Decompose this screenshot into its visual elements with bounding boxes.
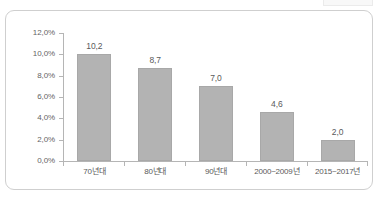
x-axis-category-label: 80년대 (125, 166, 186, 177)
y-axis-tick-label: 10,0% (33, 48, 55, 59)
y-axis-tick-mark (59, 76, 63, 77)
scan-edge-artifact (323, 0, 373, 6)
x-axis-category-label: 90년대 (186, 166, 247, 177)
bar (321, 140, 355, 161)
bar (77, 54, 111, 161)
x-axis-label-group: 70년대 80년대 90년대 2000~2009년 2015~2017년 (64, 166, 368, 177)
x-axis-category-label: 70년대 (64, 166, 125, 177)
bar (199, 86, 233, 161)
chart-container: 12,0% 10,0% 8,0% 6,0% 4,0% 2,0% (5, 10, 373, 190)
bar (260, 112, 294, 161)
bar-value-label: 4,6 (246, 99, 307, 109)
bar-series: 10,2 8,7 7,0 4,6 2,0 (64, 33, 368, 161)
bar-value-label: 10,2 (64, 41, 125, 51)
bar-value-label: 8,7 (125, 55, 186, 65)
x-axis-category-label: 2000~2009년 (246, 166, 307, 177)
y-axis-tick-mark (59, 140, 63, 141)
y-axis-tick-label: 4,0% (37, 112, 55, 123)
y-axis-tick-mark (59, 54, 63, 55)
bar-group: 7,0 (186, 33, 247, 161)
y-axis-tick-mark (59, 33, 63, 34)
y-axis-tick-mark (59, 118, 63, 119)
bar-group: 4,6 (246, 33, 307, 161)
y-axis-tick-mark (59, 97, 63, 98)
bar-group: 8,7 (125, 33, 186, 161)
x-axis-category-label: 2015~2017년 (307, 166, 368, 177)
bar-value-label: 2,0 (307, 127, 368, 137)
y-axis-tick-label: 12,0% (33, 27, 55, 38)
y-axis-tick-group: 12,0% 10,0% 8,0% 6,0% 4,0% 2,0% (6, 33, 63, 161)
bar-group: 2,0 (307, 33, 368, 161)
y-axis-tick-label: 0,0% (37, 155, 55, 166)
y-axis-tick-label: 2,0% (37, 134, 55, 145)
bar-group: 10,2 (64, 33, 125, 161)
y-axis-tick-label: 8,0% (37, 70, 55, 81)
bar (138, 68, 172, 161)
bar-value-label: 7,0 (186, 73, 247, 83)
plot-area: 12,0% 10,0% 8,0% 6,0% 4,0% 2,0% (6, 11, 372, 189)
y-axis-tick-label: 6,0% (37, 91, 55, 102)
